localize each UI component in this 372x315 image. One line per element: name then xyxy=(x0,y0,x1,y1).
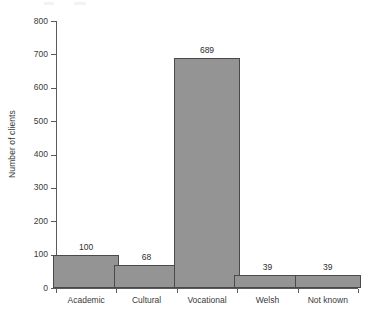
y-axis-tick xyxy=(51,54,56,55)
x-axis-tick xyxy=(298,289,299,293)
y-axis-tick-label: 600 xyxy=(22,83,48,92)
scan-artifact xyxy=(44,2,54,5)
y-axis-tick-label: 200 xyxy=(22,217,48,226)
y-axis-tick xyxy=(51,88,56,89)
bar xyxy=(174,58,240,288)
y-axis-tick xyxy=(51,155,56,156)
x-axis-tick xyxy=(237,289,238,293)
y-axis-tick xyxy=(51,188,56,189)
y-axis-title: Number of clients xyxy=(4,0,20,288)
y-axis-tick-label: 300 xyxy=(22,183,48,192)
y-axis-tick-label: 400 xyxy=(22,150,48,159)
y-axis-tick-label: 500 xyxy=(22,117,48,126)
x-axis-tick xyxy=(177,289,178,293)
y-axis-tick xyxy=(51,21,56,22)
y-axis-title-text: Number of clients xyxy=(7,110,17,178)
x-axis-tick xyxy=(116,289,117,293)
bar-value-label: 68 xyxy=(117,253,177,262)
bar-value-label: 689 xyxy=(177,46,237,55)
bar-value-label: 100 xyxy=(56,243,116,252)
bar xyxy=(295,275,361,288)
bar xyxy=(114,265,180,288)
scan-artifact xyxy=(74,2,86,5)
y-axis-tick-label: 700 xyxy=(22,50,48,59)
bar-chart: Number of clients 0100200300400500600700… xyxy=(0,0,372,315)
x-axis-category-label: Not known xyxy=(288,295,368,305)
x-axis-tick xyxy=(358,289,359,293)
bar xyxy=(53,255,119,288)
y-axis-tick-label: 0 xyxy=(22,284,48,293)
y-axis-tick-label: 100 xyxy=(22,250,48,259)
y-axis-tick xyxy=(51,121,56,122)
bar xyxy=(234,275,300,288)
bar-value-label: 39 xyxy=(237,263,297,272)
x-axis-tick xyxy=(56,289,57,293)
y-axis-tick-label: 800 xyxy=(22,17,48,26)
y-axis-tick xyxy=(51,221,56,222)
x-axis-line xyxy=(56,288,358,289)
bar-value-label: 39 xyxy=(298,263,358,272)
